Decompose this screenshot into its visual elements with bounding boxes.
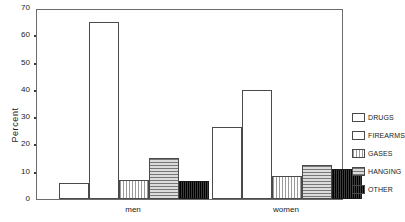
- legend-label: FIREARMS: [368, 132, 405, 139]
- y-axis-label: Percent: [10, 87, 20, 163]
- group-label-women: women: [256, 205, 316, 214]
- legend-item-drugs[interactable]: DRUGS: [352, 108, 404, 126]
- legend-item-firearms[interactable]: FIREARMS: [352, 126, 404, 144]
- legend-label: GASES: [368, 150, 393, 157]
- y-tick-label: 0: [10, 194, 30, 203]
- bar-women-gases: [272, 176, 302, 199]
- y-tick-label: 70: [10, 3, 30, 12]
- bar-women-drugs: [212, 127, 242, 199]
- y-tick-label: 30: [10, 112, 30, 121]
- legend-swatch-firearms: [352, 131, 365, 140]
- legend-item-hanging[interactable]: HANGING: [352, 162, 404, 180]
- bar-men-gases: [119, 180, 149, 199]
- legend-swatch-other: [352, 185, 365, 194]
- legend-swatch-hanging: [352, 167, 365, 176]
- legend-label: HANGING: [368, 168, 401, 175]
- y-tick-label: 50: [10, 58, 30, 67]
- y-tick-label: 10: [10, 167, 30, 176]
- plot-area: [36, 9, 343, 200]
- bar-men-hanging: [149, 158, 179, 199]
- y-tick-label: 40: [10, 85, 30, 94]
- bar-women-firearms: [242, 90, 272, 199]
- bar-men-drugs: [59, 183, 89, 199]
- bar-men-firearms: [89, 22, 119, 199]
- y-tick-label: 60: [10, 30, 30, 39]
- legend-label: OTHER: [368, 186, 393, 193]
- legend-item-other[interactable]: OTHER: [352, 180, 404, 198]
- legend: DRUGSFIREARMSGASESHANGINGOTHER: [352, 108, 404, 198]
- y-tick-label: 20: [10, 139, 30, 148]
- legend-label: DRUGS: [368, 114, 394, 121]
- legend-item-gases[interactable]: GASES: [352, 144, 404, 162]
- bar-men-other: [179, 181, 209, 199]
- legend-swatch-gases: [352, 149, 365, 158]
- group-label-men: men: [103, 205, 163, 214]
- bar-women-hanging: [302, 165, 332, 199]
- legend-swatch-drugs: [352, 113, 365, 122]
